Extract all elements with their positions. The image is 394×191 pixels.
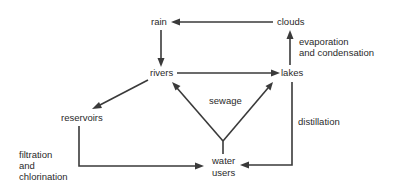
node-clouds: clouds xyxy=(277,16,305,27)
label-filtration-line1: filtration xyxy=(19,149,52,160)
arrow-lakes-to-water-users xyxy=(240,82,292,169)
arrow-rain-to-rivers xyxy=(158,30,165,67)
arrow-lakes-to-clouds xyxy=(287,30,294,65)
label-filtration-line3: chlorination xyxy=(19,171,68,182)
label-evaporation-line2: and condensation xyxy=(299,47,374,58)
arrow-rivers-to-reservoirs xyxy=(92,80,148,109)
node-rain: rain xyxy=(151,16,167,27)
node-rivers: rivers xyxy=(150,67,173,78)
node-reservoirs: reservoirs xyxy=(61,112,103,123)
arrow-clouds-to-rain xyxy=(171,19,273,26)
water-cycle-diagram: rain clouds rivers lakes reservoirs wate… xyxy=(0,0,394,191)
label-filtration-line2: and xyxy=(19,160,35,171)
label-evaporation-line1: evaporation xyxy=(299,36,349,47)
node-water-users-line2: users xyxy=(212,167,235,178)
arrow-reservoirs-to-water-users xyxy=(79,126,204,170)
node-lakes: lakes xyxy=(281,67,303,78)
node-water-users-line1: water xyxy=(211,155,235,166)
arrow-sewage-split xyxy=(172,82,273,154)
arrow-rivers-to-lakes xyxy=(177,70,280,77)
label-distillation: distillation xyxy=(298,116,340,127)
label-sewage: sewage xyxy=(209,95,242,106)
